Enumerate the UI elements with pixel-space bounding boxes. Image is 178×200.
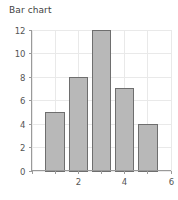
bar-2 <box>70 78 88 172</box>
bar-1 <box>46 113 65 172</box>
x-tick-label: 2 <box>76 177 81 187</box>
bar-5 <box>139 125 158 172</box>
bar-chart-panel: Bar chart 024681012 246 <box>0 0 178 200</box>
bar-4 <box>116 89 134 172</box>
y-tick-label: 12 <box>15 26 26 36</box>
y-axis-tick-labels: 024681012 <box>15 26 26 177</box>
y-tick-label: 8 <box>20 73 25 83</box>
x-axis-tick-labels: 246 <box>76 177 174 187</box>
x-tick-label: 4 <box>122 177 127 187</box>
y-tick-label: 6 <box>20 96 25 106</box>
y-tick-label: 2 <box>20 143 25 153</box>
y-tick-label: 0 <box>20 167 25 177</box>
x-tick-label: 6 <box>169 177 174 187</box>
y-tick-label: 10 <box>15 49 26 59</box>
bar-3 <box>93 31 111 172</box>
chart-plot-area: 024681012 246 <box>0 0 178 200</box>
y-tick-label: 4 <box>20 120 25 130</box>
